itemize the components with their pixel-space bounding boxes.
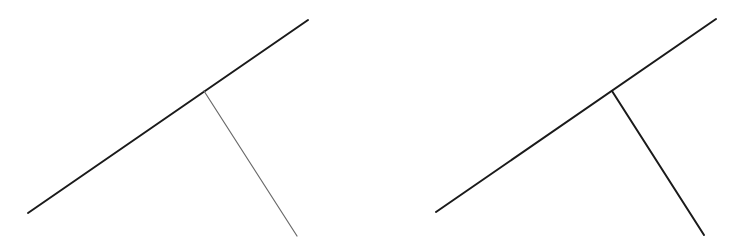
- right-branch-line: [612, 91, 704, 235]
- diagram-canvas: [0, 0, 729, 242]
- right-figure: [436, 19, 716, 235]
- left-main-line: [28, 20, 308, 213]
- right-main-line: [436, 19, 716, 212]
- left-branch-line: [204, 91, 297, 236]
- left-figure: [28, 20, 308, 236]
- diagram-svg: [0, 0, 729, 242]
